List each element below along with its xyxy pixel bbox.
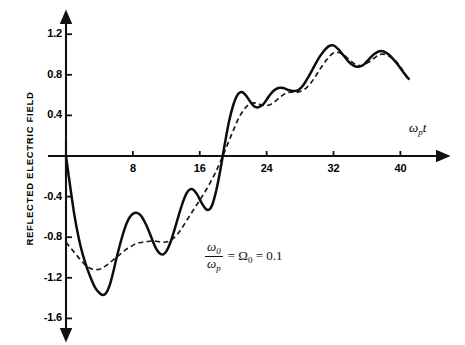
y-tick-label: -0.4 [18, 190, 62, 202]
annotation-equality: = Ω0 = 0.1 [228, 248, 283, 265]
y-tick-label: 1.2 [18, 27, 62, 39]
y-tick-label: -0.8 [18, 230, 62, 242]
y-tick-label: -1.2 [18, 271, 62, 283]
x-tick-label: 40 [380, 162, 420, 174]
parameter-annotation: ω0 ωp = Ω0 = 0.1 [205, 240, 283, 273]
x-tick-label: 8 [113, 162, 153, 174]
y-tick-label: 0.8 [18, 68, 62, 80]
fraction-denominator: ωp [205, 257, 223, 273]
reflected-electric-field-figure: REFLECTED ELECTRIC FIELD ωpt 8162432401.… [0, 0, 465, 345]
dashed-curve [66, 52, 409, 269]
x-tick-label: 32 [314, 162, 354, 174]
x-axis-title: ωpt [409, 120, 426, 137]
x-tick-label: 24 [247, 162, 287, 174]
y-tick-label: 0.4 [18, 108, 62, 120]
y-tick-label: -1.6 [18, 311, 62, 323]
fraction-numerator: ω0 [205, 240, 223, 257]
x-tick-label: 16 [180, 162, 220, 174]
omega-ratio-fraction: ω0 ωp [205, 240, 223, 273]
